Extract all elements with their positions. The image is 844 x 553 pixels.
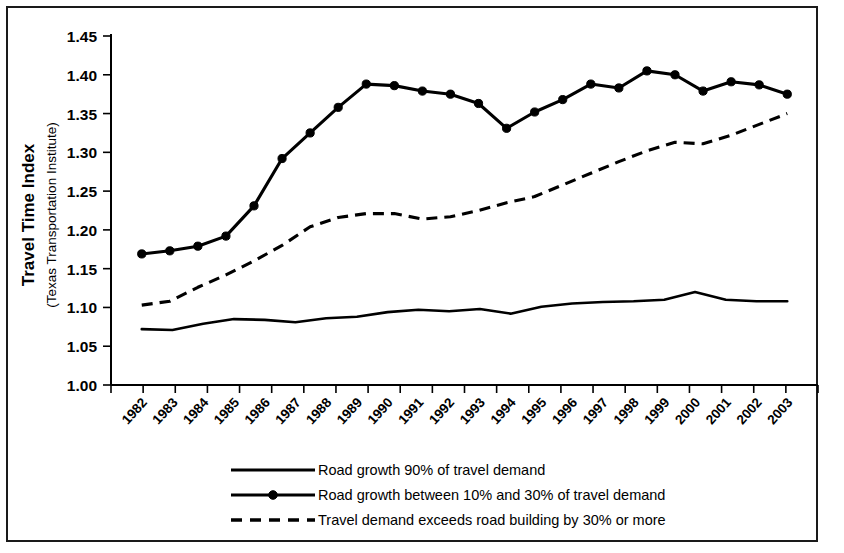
data-point-marker: [138, 250, 146, 258]
data-point-marker: [755, 81, 763, 89]
x-tick-label: 1991: [395, 395, 427, 428]
data-point-marker: [559, 96, 567, 104]
x-tick-label: 2000: [672, 395, 703, 427]
x-tick-label: 2003: [764, 395, 796, 428]
data-point-marker: [278, 154, 286, 162]
data-point-marker: [194, 242, 202, 250]
y-tick-label: 1.25: [67, 183, 98, 200]
y-axis-title: Travel Time Index (Texas Transportation …: [19, 122, 59, 307]
data-point-marker: [615, 84, 623, 92]
x-tick-label: 1996: [549, 395, 581, 428]
chart-svg: 1.001.051.101.151.201.251.301.351.401.45…: [0, 0, 844, 553]
y-axis-title-main: Travel Time Index: [19, 143, 38, 286]
data-point-marker: [531, 108, 539, 116]
data-point-marker: [446, 90, 454, 98]
data-point-marker: [390, 82, 398, 90]
data-point-marker: [306, 129, 314, 137]
data-point-marker: [474, 99, 482, 107]
y-tick-label: 1.10: [67, 299, 97, 316]
y-tick-label: 1.30: [67, 144, 97, 161]
y-tick-label: 1.15: [67, 261, 98, 278]
x-tick-label: 1983: [149, 395, 181, 428]
data-point-marker: [699, 87, 707, 95]
x-tick-label: 1984: [180, 395, 212, 428]
y-tick-label: 1.40: [67, 67, 97, 84]
x-tick-label: 1987: [272, 395, 303, 427]
x-tick-label: 1989: [334, 395, 365, 427]
legend-label-2: Travel demand exceeds road building by 3…: [318, 512, 666, 528]
x-tick-label: 1985: [211, 395, 243, 428]
x-tick-label: 1986: [242, 395, 274, 428]
x-tick-label: 1995: [518, 395, 550, 428]
y-tick-label: 1.45: [67, 28, 98, 45]
x-axis-tick-labels: 1982198319841985198619871988198919901991…: [119, 395, 796, 428]
x-tick-label: 1982: [119, 395, 150, 427]
x-tick-label: 1990: [365, 395, 396, 427]
y-tick-label: 1.00: [67, 377, 97, 394]
data-point-marker: [250, 202, 258, 210]
series-group: [138, 67, 792, 330]
data-point-marker: [643, 67, 651, 75]
series-line-2: [142, 114, 788, 306]
y-tick-label: 1.05: [67, 338, 98, 355]
legend-label-1: Road growth between 10% and 30% of trave…: [318, 487, 665, 503]
data-point-marker: [166, 247, 174, 255]
data-point-marker: [334, 103, 342, 111]
y-tick-label: 1.20: [67, 222, 97, 239]
figure-container: 1.001.051.101.151.201.251.301.351.401.45…: [0, 0, 844, 553]
x-tick-label: 1998: [611, 395, 643, 428]
y-axis-ticks: [103, 36, 111, 385]
x-tick-label: 1997: [580, 395, 611, 427]
data-point-marker: [587, 80, 595, 88]
data-point-marker: [362, 80, 370, 88]
data-point-marker: [222, 232, 230, 240]
x-tick-label: 1992: [426, 395, 457, 427]
y-axis-tick-labels: 1.001.051.101.151.201.251.301.351.401.45: [67, 28, 98, 394]
data-point-marker: [418, 87, 426, 95]
series-line-0: [142, 292, 788, 330]
chart-legend: Road growth 90% of travel demandRoad gro…: [231, 462, 666, 528]
x-tick-label: 1988: [303, 395, 335, 428]
legend-marker-1: [269, 491, 278, 500]
x-tick-label: 1993: [457, 395, 489, 428]
x-tick-label: 1994: [488, 395, 520, 428]
series-line-1: [142, 71, 788, 254]
y-tick-label: 1.35: [67, 106, 98, 123]
x-tick-label: 2002: [733, 395, 764, 427]
data-point-marker: [727, 78, 735, 86]
y-axis-title-sub: (Texas Transportation Institute): [44, 122, 59, 307]
x-tick-label: 1999: [641, 395, 672, 427]
chart-plot-area: 1.001.051.101.151.201.251.301.351.401.45…: [0, 0, 844, 553]
data-point-marker: [503, 124, 511, 132]
data-point-marker: [671, 71, 679, 79]
data-point-marker: [783, 90, 791, 98]
x-tick-label: 2001: [703, 395, 735, 428]
x-axis-ticks: [111, 385, 818, 393]
legend-label-0: Road growth 90% of travel demand: [318, 462, 545, 478]
